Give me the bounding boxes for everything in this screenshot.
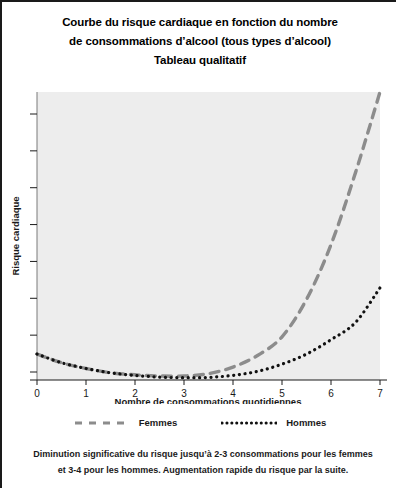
y-axis-title: Risque cardiaque <box>10 196 21 275</box>
chart-caption: Diminution significative du risque jusqu… <box>20 446 386 478</box>
chart-legend: Femmes Hommes <box>2 417 396 429</box>
caption-line-2: et 3-4 pour les hommes. Augmentation rap… <box>20 462 386 478</box>
svg-text:0: 0 <box>34 388 40 399</box>
svg-text:7: 7 <box>377 388 383 399</box>
svg-text:1: 1 <box>83 388 89 399</box>
title-line-1: Courbe du risque cardiaque en fonction d… <box>2 13 396 32</box>
plot-area-background <box>37 92 380 380</box>
legend-label-femmes: Femmes <box>139 417 178 429</box>
x-axis-title: Nombre de consommations quotidiennes <box>115 396 302 404</box>
page-title: Courbe du risque cardiaque en fonction d… <box>2 13 396 70</box>
legend-item-femmes: Femmes <box>74 417 178 429</box>
caption-line-1: Diminution significative du risque jusqu… <box>20 446 386 462</box>
x-axis-ticks <box>37 380 380 385</box>
chart-figure: 01234567 Nombre de consommations quotidi… <box>2 88 396 404</box>
legend-label-hommes: Hommes <box>286 417 326 429</box>
legend-item-hommes: Hommes <box>221 417 326 429</box>
legend-swatch-dotted-icon <box>221 419 277 427</box>
title-line-3: Tableau qualitatif <box>2 51 396 70</box>
title-line-2: de consommations d’alcool (tous types d’… <box>2 32 396 51</box>
risk-curve-chart: 01234567 Nombre de consommations quotidi… <box>2 88 396 404</box>
chart-page: Courbe du risque cardiaque en fonction d… <box>0 0 396 488</box>
legend-swatch-dashed-icon <box>74 419 130 427</box>
svg-text:6: 6 <box>328 388 334 399</box>
y-axis-ticks <box>30 114 37 372</box>
